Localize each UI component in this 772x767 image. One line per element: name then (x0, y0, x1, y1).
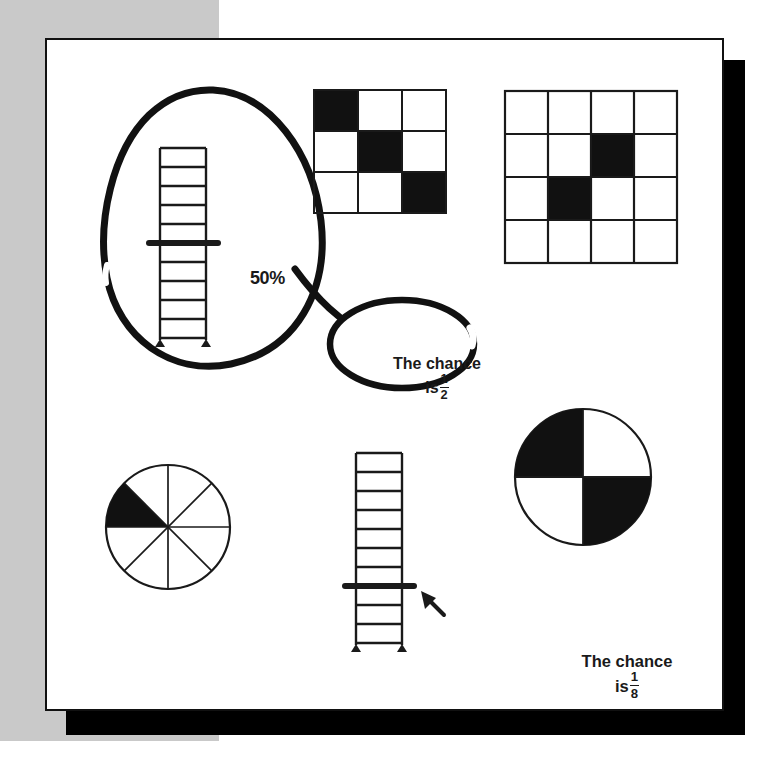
bubble-fraction-denominator: 2 (440, 388, 449, 402)
ladder-foot-right (397, 644, 407, 652)
pie-quarters (510, 404, 656, 550)
worksheet-page: 50% The chance is12 (45, 38, 724, 711)
answer-fraction-denominator: 8 (630, 686, 639, 700)
grid-cell-filled (402, 172, 446, 213)
answer-text: The chance is18 (552, 653, 702, 700)
grid-3x3-cells (314, 90, 446, 213)
bubble-fraction: 12 (440, 373, 449, 402)
bubble-line-2-prefix: is (425, 379, 438, 396)
pie-eighths (102, 461, 234, 593)
speech-bubble-text: The chance is12 (377, 356, 497, 401)
grid-4x4 (504, 89, 684, 267)
ladder-foot-right (201, 339, 211, 347)
answer-fraction: 18 (630, 670, 639, 699)
pie-spokes (106, 465, 230, 589)
oval-gap (105, 265, 107, 283)
grid-cell-filled (314, 90, 358, 131)
pie-quarter-shaded-bottomright (583, 477, 651, 545)
pie-quarter-shaded-topleft (515, 409, 583, 477)
grid-cell-filled (591, 134, 634, 177)
ladder-foot-left (351, 644, 361, 652)
grid-cell-filled (548, 177, 591, 220)
answer-line-2-prefix: is (615, 677, 629, 695)
worksheet-content: 50% The chance is12 (47, 40, 722, 709)
ladder-foot-left (155, 339, 165, 347)
percent-label-50: 50% (250, 269, 285, 288)
grid-4x4-lines (505, 91, 677, 263)
probability-ladder-bottom (339, 445, 449, 660)
pointer-arrow-icon (412, 585, 456, 625)
page-root: 50% The chance is12 (0, 0, 772, 767)
bubble-gap (470, 328, 473, 346)
answer-line-1: The chance (582, 652, 673, 670)
probability-ladder-top (143, 140, 253, 355)
bubble-fraction-numerator: 1 (440, 373, 449, 388)
grid-3x3 (313, 89, 449, 217)
bubble-line-1: The chance (393, 355, 481, 372)
grid-cell-filled (358, 131, 402, 172)
answer-fraction-numerator: 1 (630, 670, 639, 685)
